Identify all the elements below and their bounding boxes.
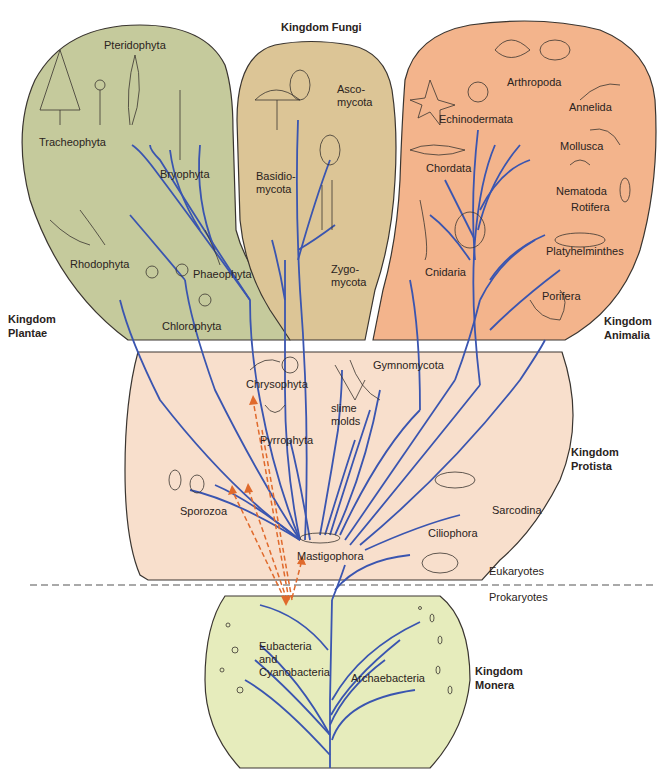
group-eubacteria-cyanobacteria: Eubacteria and Cyanobacteria [259, 640, 330, 679]
group-tracheophyta: Tracheophyta [39, 136, 106, 149]
kingdom-protista-label: Kingdom Protista [571, 445, 619, 473]
eukaryotes-label: Eukaryotes [489, 565, 544, 578]
group-zygomycota: Zygo- mycota [331, 263, 366, 289]
group-slime-molds: slime molds [331, 402, 360, 428]
kingdom-protista-shape [125, 352, 573, 580]
group-mollusca: Mollusca [560, 140, 603, 153]
group-chrysophyta: Chrysophyta [246, 378, 308, 391]
group-platyhelminthes: Platyhelminthes [546, 245, 624, 258]
group-bryophyta: Bryophyta [160, 168, 210, 181]
phylogenetic-tree-diagram [0, 0, 667, 784]
kingdom-plantae-label: Kingdom Plantae [8, 312, 56, 340]
group-phaeophyta: Phaeophyta [193, 268, 252, 281]
group-basidiomycota: Basidio- mycota [256, 170, 296, 196]
group-annelida: Annelida [569, 101, 612, 114]
group-chordata: Chordata [426, 162, 471, 175]
group-porifera: Porifera [542, 290, 581, 303]
kingdom-monera-shape [205, 596, 470, 768]
kingdom-animalia-shape [373, 21, 656, 340]
group-gymnomycota: Gymnomycota [373, 359, 444, 372]
group-echinodermata: Echinodermata [439, 113, 513, 126]
group-mastigophora: Mastigophora [297, 550, 364, 563]
kingdom-fungi-label: Kingdom Fungi [281, 20, 362, 34]
group-ascomycota: Asco- mycota [337, 83, 372, 109]
prokaryotes-label: Prokaryotes [489, 591, 548, 604]
group-sarcodina: Sarcodina [492, 504, 542, 517]
group-pyrrophyta: Pyrrophyta [260, 434, 313, 447]
group-rhodophyta: Rhodophyta [70, 258, 129, 271]
group-sporozoa: Sporozoa [180, 505, 227, 518]
group-arthropoda: Arthropoda [507, 76, 561, 89]
group-pteridophyta: Pteridophyta [104, 39, 166, 52]
kingdom-animalia-label: Kingdom Animalia [604, 314, 652, 342]
group-chlorophyta: Chlorophyta [162, 320, 221, 333]
kingdom-monera-label: Kingdom Monera [475, 664, 523, 692]
group-ciliophora: Ciliophora [428, 527, 478, 540]
group-nematoda: Nematoda [556, 185, 607, 198]
group-cnidaria: Cnidaria [425, 266, 466, 279]
group-archaebacteria: Archaebacteria [351, 672, 425, 685]
group-rotifera: Rotifera [571, 201, 610, 214]
